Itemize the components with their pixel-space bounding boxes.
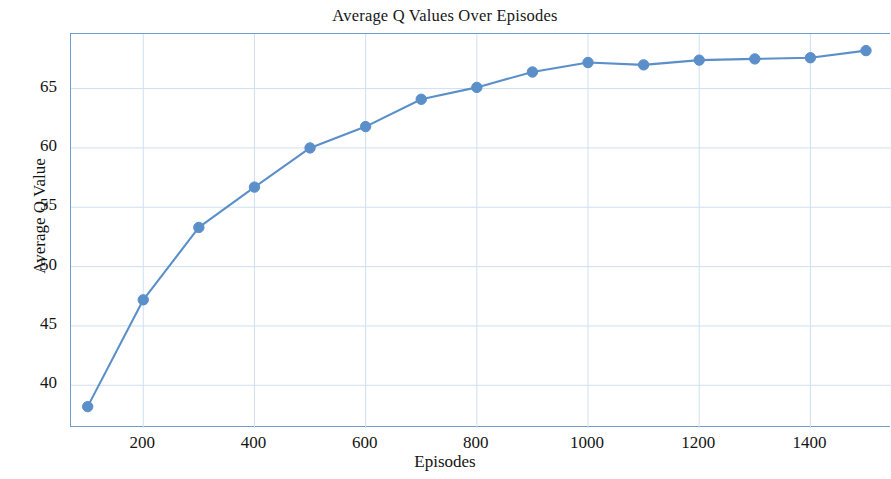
data-point [694, 55, 704, 65]
horizontal-gridlines [71, 89, 891, 386]
plot-canvas [71, 34, 891, 428]
data-point [360, 121, 370, 131]
x-axis-label: Episodes [0, 452, 890, 472]
x-tick-label: 800 [436, 433, 516, 453]
x-tick-label: 1200 [658, 433, 738, 453]
data-point [249, 182, 259, 192]
data-point [305, 143, 315, 153]
x-tick-label: 1000 [547, 433, 627, 453]
data-point [583, 57, 593, 67]
x-tick-label: 600 [325, 433, 405, 453]
data-point [861, 45, 871, 55]
data-point [472, 82, 482, 92]
x-tick-label: 200 [102, 433, 182, 453]
x-tick-label: 400 [213, 433, 293, 453]
data-point [194, 222, 204, 232]
data-point [416, 94, 426, 104]
data-point [527, 67, 537, 77]
y-tick-label: 40 [0, 373, 57, 393]
x-tick-label: 1400 [769, 433, 849, 453]
y-axis-label: Average Q Value [30, 86, 50, 346]
data-point [638, 60, 648, 70]
plot-area [70, 33, 890, 427]
data-point [82, 401, 92, 411]
chart-title: Average Q Values Over Episodes [0, 6, 890, 26]
data-point [805, 53, 815, 63]
data-point [138, 295, 148, 305]
data-point [750, 54, 760, 64]
